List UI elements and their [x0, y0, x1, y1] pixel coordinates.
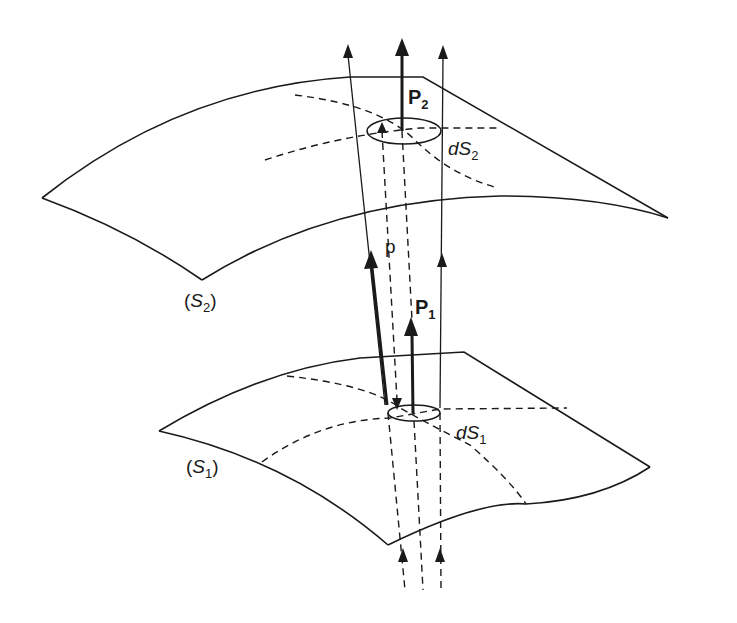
- dashed-ray-center: [402, 131, 412, 320]
- ray-right: [440, 57, 443, 408]
- arrow-head-icon: [364, 250, 378, 269]
- surface-s1-left-edge: [159, 431, 388, 545]
- arrow-head-icon: [343, 44, 353, 58]
- surface-s1: [159, 352, 650, 545]
- arrow-head-icon: [435, 548, 445, 562]
- dashed-ray-below-center: [414, 421, 423, 590]
- dashed-ray-p: [382, 131, 397, 400]
- label-s1: (S1): [186, 456, 219, 481]
- arrow-head-icon: [377, 122, 387, 133]
- arrow-head-icon: [438, 45, 448, 59]
- vector-p: [372, 268, 387, 405]
- label-ds2: dS2: [448, 138, 478, 163]
- dashed-ray-below-right: [440, 413, 441, 590]
- label-p1: P1: [415, 296, 436, 322]
- surface-s1-gridline-1: [287, 376, 526, 504]
- label-p: p: [385, 236, 396, 257]
- ray-left: [348, 55, 385, 405]
- label-p2: P2: [408, 86, 429, 112]
- surface-s1-bottom-edge: [388, 467, 650, 545]
- surface-s2-top-edge: [42, 77, 668, 218]
- arrow-head-icon: [395, 38, 409, 56]
- surface-s2: [42, 77, 668, 280]
- surface-s2-left-edge: [42, 198, 202, 280]
- arrow-head-icon: [404, 317, 418, 336]
- vector-p1: [412, 335, 413, 413]
- label-ds1: dS1: [456, 422, 486, 447]
- surface-s1-top-edge: [159, 352, 650, 467]
- arrow-head-icon: [437, 253, 447, 267]
- flux-tube-diagram: P2 dS2 p P1 dS1 (S2) (S1): [0, 0, 737, 623]
- arrow-head-icon: [398, 548, 408, 562]
- surface-s2-bottom-edge: [202, 196, 668, 280]
- label-s2: (S2): [184, 290, 217, 315]
- dashed-ray-below-left: [388, 413, 405, 590]
